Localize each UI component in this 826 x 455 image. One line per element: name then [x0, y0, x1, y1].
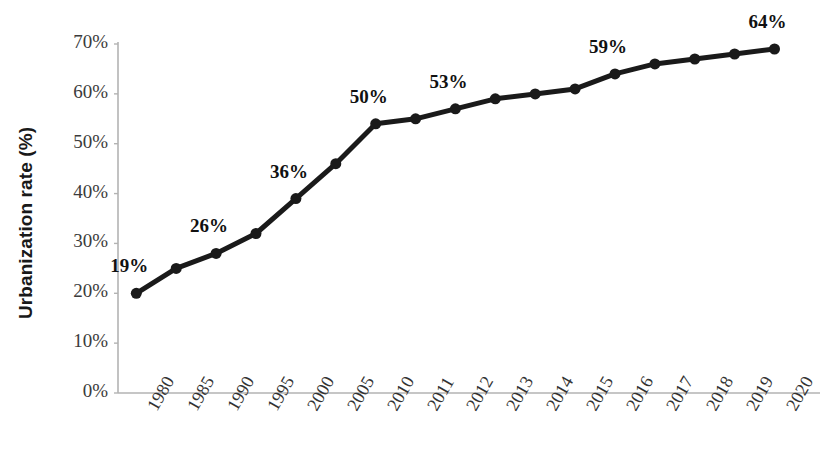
data-point-marker-2015 — [570, 83, 581, 94]
data-point-marker-1990 — [211, 248, 222, 259]
data-point-marker-2016 — [610, 68, 621, 79]
data-point-marker-2010 — [370, 118, 381, 129]
y-tick-label-20: 20% — [38, 280, 108, 302]
data-point-marker-2011 — [410, 113, 421, 124]
data-point-marker-2012 — [450, 103, 461, 114]
y-tick-label-40: 40% — [38, 181, 108, 203]
point-value-label-2000: 36% — [270, 161, 308, 183]
point-value-label-1990: 26% — [190, 215, 228, 237]
y-tick-label-30: 30% — [38, 230, 108, 252]
urbanization-rate-line-chart: Urbanization rate (%) 0%10%20%30%40%50%6… — [0, 0, 826, 455]
data-point-marker-2019 — [729, 49, 740, 60]
y-tick-label-50: 50% — [38, 131, 108, 153]
y-tick-label-10: 10% — [38, 330, 108, 352]
data-point-marker-2017 — [649, 58, 660, 69]
y-tick-label-0: 0% — [38, 380, 108, 402]
data-point-marker-2000 — [290, 193, 301, 204]
point-value-label-1980: 19% — [110, 255, 148, 277]
data-point-marker-2020 — [769, 44, 780, 55]
point-value-label-2012: 53% — [429, 71, 467, 93]
y-tick-label-70: 70% — [38, 31, 108, 53]
y-axis-title: Urbanization rate (%) — [15, 93, 37, 353]
point-value-label-2010: 50% — [350, 86, 388, 108]
data-point-marker-1985 — [171, 263, 182, 274]
point-value-label-2020: 64% — [749, 11, 787, 33]
data-point-marker-2013 — [490, 93, 501, 104]
point-value-label-2016: 59% — [589, 36, 627, 58]
data-point-marker-1995 — [251, 228, 262, 239]
data-point-marker-2005 — [330, 158, 341, 169]
data-point-marker-2018 — [689, 54, 700, 65]
y-tick-label-60: 60% — [38, 81, 108, 103]
data-point-marker-2014 — [530, 88, 541, 99]
data-point-marker-1980 — [131, 288, 142, 299]
